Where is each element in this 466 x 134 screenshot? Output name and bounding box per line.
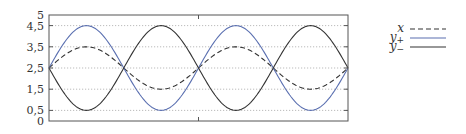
y-tick-label: 2,5 xyxy=(27,62,45,75)
line-chart: 00,51,52,53,54,55 xy+y− xyxy=(0,0,466,134)
plot-curves xyxy=(49,26,348,111)
series-y−-curve xyxy=(49,26,348,111)
y-tick-label: 0,5 xyxy=(27,104,45,117)
legend: xy+y− xyxy=(389,21,446,54)
y-tick-label: 3,5 xyxy=(27,41,45,54)
legend-label: x xyxy=(397,21,404,35)
y-tick-label: 1,5 xyxy=(27,83,45,96)
y-tick-label: 5 xyxy=(37,9,44,22)
